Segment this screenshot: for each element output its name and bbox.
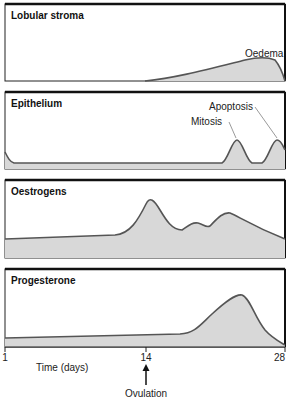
panel-title: Epithelium bbox=[11, 98, 62, 109]
panel-progesterone: Progesterone bbox=[5, 269, 285, 347]
x-axis-label: Time (days) bbox=[36, 362, 88, 373]
ovulation-label: Ovulation bbox=[125, 388, 167, 399]
menstrual-cycle-chart: Lobular stroma Oedema Epithelium Mitosis… bbox=[0, 0, 291, 402]
panel-epithelium: Epithelium Mitosis Apoptosis bbox=[5, 92, 285, 169]
panel-title: Progesterone bbox=[11, 275, 76, 286]
panel-title: Lobular stroma bbox=[11, 10, 84, 21]
tick-label-14: 14 bbox=[140, 352, 152, 363]
panel-oestrogens: Oestrogens bbox=[5, 180, 285, 258]
ovulation-marker: Ovulation bbox=[125, 364, 167, 399]
panel-title: Oestrogens bbox=[11, 186, 67, 197]
annotation-mitosis: Mitosis bbox=[191, 116, 222, 127]
tick-label-28: 28 bbox=[274, 352, 286, 363]
panel-lobular-stroma: Lobular stroma Oedema bbox=[5, 4, 285, 81]
annotation-oedema: Oedema bbox=[245, 48, 284, 59]
tick-label-1: 1 bbox=[2, 352, 8, 363]
annotation-apoptosis: Apoptosis bbox=[209, 101, 253, 112]
